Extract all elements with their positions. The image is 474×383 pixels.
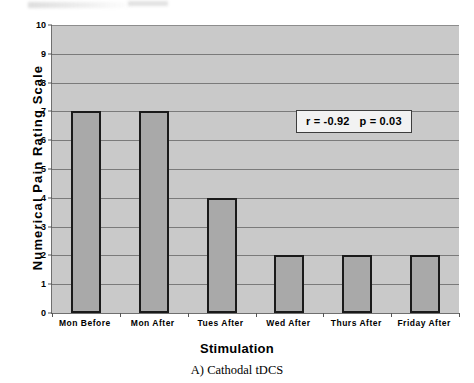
x-axis-tick-mark (323, 313, 324, 317)
x-axis-tick-mark (391, 313, 392, 317)
x-axis-title: Stimulation (0, 341, 474, 356)
bar (410, 255, 440, 313)
x-axis-tick-mark (459, 313, 460, 317)
x-axis-tick-label: Mon After (131, 318, 175, 328)
figure-container: Numerical Pain Rating Scale 012345678910… (0, 0, 474, 383)
statistics-annotation: r = -0.92 p = 0.03 (296, 110, 412, 133)
bar-series (52, 25, 459, 313)
x-axis-tick-label: Wed After (266, 318, 310, 328)
x-axis-tick-mark (188, 313, 189, 317)
x-axis-tick-mark (52, 313, 53, 317)
bar (139, 111, 169, 313)
bar (274, 255, 304, 313)
bar (207, 198, 237, 313)
x-axis-tick-label: Friday After (397, 318, 450, 328)
plot-area: 012345678910 (51, 25, 459, 314)
x-axis-tick-label: Tues After (198, 318, 244, 328)
scan-artifact-secondary (128, 1, 168, 6)
x-axis-tick-label: Thurs After (331, 318, 382, 328)
x-axis-tick-mark (120, 313, 121, 317)
x-axis-category-labels: Mon BeforeMon AfterTues AfterWed AfterTh… (51, 318, 458, 334)
figure-caption: A) Cathodal tDCS (0, 363, 474, 378)
bar (71, 111, 101, 313)
x-axis-tick-label: Mon Before (59, 318, 111, 328)
bar (342, 255, 372, 313)
x-axis-tick-mark (256, 313, 257, 317)
